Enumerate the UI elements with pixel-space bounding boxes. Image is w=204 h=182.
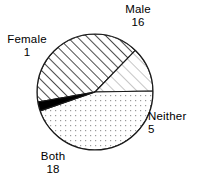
- slice-label-both: Both 18: [26, 150, 80, 176]
- slice-label-female: Female 1: [0, 33, 54, 59]
- slice-label-male-name: Male: [108, 3, 168, 16]
- slice-label-both-value: 18: [26, 163, 80, 176]
- slice-label-male-value: 16: [108, 16, 168, 29]
- slice-label-both-name: Both: [26, 150, 80, 163]
- slice-label-female-name: Female: [0, 33, 54, 46]
- slice-label-neither-name: Neither: [148, 110, 204, 123]
- pie-chart-figure: Male 16 Female 1 Neither 5 Both 18: [0, 0, 204, 182]
- slice-label-neither: Neither 5: [148, 110, 204, 136]
- slice-label-male: Male 16: [108, 3, 168, 29]
- slice-label-female-value: 1: [0, 46, 54, 59]
- slice-label-neither-value: 5: [148, 123, 204, 136]
